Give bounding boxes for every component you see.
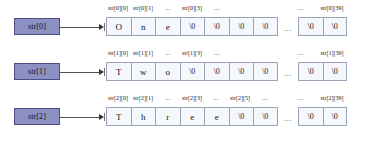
char-cell: w	[131, 62, 156, 81]
index-label-ellipsis: ...	[159, 95, 177, 101]
arrow-str-1	[60, 71, 106, 73]
index-label-ellipsis: ...	[207, 95, 225, 101]
arrow-tick	[104, 23, 105, 31]
array-row: str[0] str[0][0] str[0][1] ... str[0][3]…	[0, 2, 384, 47]
arrow-tick	[104, 113, 105, 121]
index-label-ellipsis: ...	[208, 50, 226, 56]
arrow-shaft	[60, 72, 100, 73]
char-cells-tail-row-0: \0 \0	[298, 17, 347, 36]
char-cell: e	[204, 107, 229, 126]
index-label-ellipsis: ...	[292, 95, 310, 101]
char-cell: \0	[229, 62, 254, 81]
index-label: str[1][3]	[176, 50, 208, 56]
arrow-str-2	[60, 116, 106, 118]
char-cells-main-row-2: T h r e e \0 \0	[106, 107, 278, 126]
char-cell: n	[131, 17, 156, 36]
index-label-ellipsis: ...	[292, 50, 310, 56]
index-label: str[0][3]	[176, 5, 208, 11]
char-array-diagram: str[0] str[0][0] str[0][1] ... str[0][3]…	[0, 0, 384, 141]
char-cell: T	[106, 107, 131, 126]
array-row: str[1] str[1][0] str[1][1] ... str[1][3]…	[0, 47, 384, 92]
index-label: str[2][39]	[312, 95, 352, 101]
char-cell: h	[131, 107, 156, 126]
index-label: str[0][39]	[312, 5, 352, 11]
char-cell: e	[180, 107, 205, 126]
array-row: str[2] str[2][0] str[2][1] ... str[2][3]…	[0, 92, 384, 137]
char-cells-tail-row-2: \0 \0	[298, 107, 347, 126]
char-cell: \0	[180, 62, 205, 81]
index-label-ellipsis: ...	[256, 95, 274, 101]
arrow-str-0	[60, 26, 106, 28]
pointer-box-str-2: str[2]	[14, 108, 60, 125]
cells-gap-ellipsis: ...	[281, 24, 295, 33]
char-cell: \0	[323, 107, 348, 126]
char-cells-main-row-0: O n e \0 \0 \0 \0	[106, 17, 278, 36]
index-label-ellipsis: ...	[159, 5, 177, 11]
char-cell: o	[155, 62, 180, 81]
cells-gap-ellipsis: ...	[281, 69, 295, 78]
index-label: str[2][5]	[224, 95, 256, 101]
char-cell: \0	[298, 17, 323, 36]
char-cell: \0	[253, 17, 278, 36]
index-label-ellipsis: ...	[208, 5, 226, 11]
index-label: str[1][1]	[127, 50, 159, 56]
arrow-shaft	[60, 117, 100, 118]
char-cell: T	[106, 62, 131, 81]
char-cell: O	[106, 17, 131, 36]
char-cell: \0	[229, 17, 254, 36]
arrow-shaft	[60, 27, 100, 28]
char-cell: \0	[298, 107, 323, 126]
index-label: str[0][1]	[127, 5, 159, 11]
char-cell: \0	[298, 62, 323, 81]
index-label-ellipsis: ...	[159, 50, 177, 56]
char-cells-tail-row-1: \0 \0	[298, 62, 347, 81]
char-cell: r	[155, 107, 180, 126]
char-cells-main-row-1: T w o \0 \0 \0 \0	[106, 62, 278, 81]
index-label-ellipsis: ...	[292, 5, 310, 11]
char-cell: \0	[323, 62, 348, 81]
index-label: str[2][3]	[176, 95, 208, 101]
char-cell: \0	[253, 62, 278, 81]
char-cell: \0	[229, 107, 254, 126]
char-cell: \0	[204, 17, 229, 36]
arrow-tick	[104, 68, 105, 76]
char-cell: \0	[253, 107, 278, 126]
cells-gap-ellipsis: ...	[281, 114, 295, 123]
char-cell: e	[155, 17, 180, 36]
char-cell: \0	[204, 62, 229, 81]
pointer-box-str-0: str[0]	[14, 18, 60, 35]
pointer-box-str-1: str[1]	[14, 63, 60, 80]
index-label: str[1][39]	[312, 50, 352, 56]
index-label: str[2][1]	[127, 95, 159, 101]
char-cell: \0	[323, 17, 348, 36]
char-cell: \0	[180, 17, 205, 36]
